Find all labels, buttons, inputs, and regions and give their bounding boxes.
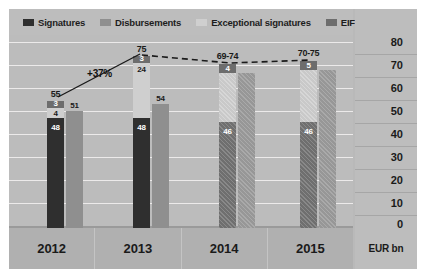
y-axis-tick-80: 80 [391,36,403,48]
bar-group-2012: 48 4 3 51 55 [47,35,127,228]
legend-item-signatures: Signatures [23,17,85,28]
y-axis-rule-10 [355,215,417,216]
x-axis-label-2012: 2012 [9,228,95,269]
value-label-exceptional-2012: 4 [47,109,64,118]
y-axis-rule-50 [355,123,417,124]
y-axis-tick-40: 40 [391,128,403,140]
value-label-eif-2015: 5 [300,61,317,70]
legend-swatch-exceptional-signatures [196,19,207,26]
segment-exceptional-2015 [300,70,317,122]
y-axis-tick-10: 10 [391,197,403,209]
stacked-bar-2013[interactable] [133,56,150,228]
bar-group-2014: 46 4 69-74 [219,35,299,228]
legend-label-eif: EIF [341,17,355,28]
legend-swatch-disbursements [100,19,111,26]
legend-label-disbursements: Disbursements [115,17,181,28]
segment-signatures-2012 [47,118,64,228]
y-axis-rule-40 [355,146,417,147]
segment-signatures-2013 [133,118,150,228]
total-label-2013: 75 [131,44,152,54]
growth-annotation: +37% [87,68,112,79]
value-label-eif-2012: 3 [47,99,64,108]
y-axis-tick-50: 50 [391,105,403,117]
x-axis-label-2015: 2015 [268,228,353,269]
disbursements-bar-2014[interactable] [238,73,255,228]
y-axis-rule-20 [355,192,417,193]
stacked-bar-2012[interactable] [47,101,64,228]
y-axis-rule-80 [355,54,417,55]
legend-swatch-signatures [23,19,34,26]
y-axis-rule-30 [355,169,417,170]
plot-area: 48 4 3 51 55 48 24 3 54 75 [9,35,353,228]
legend-swatch-eif [326,19,337,26]
legend-label-exceptional-signatures: Exceptional signatures [211,17,311,28]
value-label-disbursements-2012: 51 [66,101,83,110]
segment-exceptional-2014 [219,73,236,122]
value-label-signatures-2013: 48 [133,123,150,132]
y-axis: 80 70 60 50 40 30 20 10 0 [355,9,417,228]
y-axis-tick-60: 60 [391,82,403,94]
value-label-eif-2013: 3 [133,54,150,63]
disbursements-bar-2015[interactable] [319,70,336,228]
value-label-signatures-2012: 48 [47,123,64,132]
legend-label-signatures: Signatures [38,17,85,28]
unit-label: EUR bn [355,228,417,269]
legend-item-exceptional-signatures: Exceptional signatures [196,17,311,28]
disbursements-bar-2013[interactable] [152,104,169,228]
legend-item-disbursements: Disbursements [100,17,181,28]
disbursements-bar-2012[interactable] [66,111,83,228]
x-axis-label-2014: 2014 [182,228,268,269]
total-label-2015: 70-75 [289,48,328,58]
value-label-signatures-2015: 46 [300,127,317,136]
y-axis-rule-70 [355,77,417,78]
y-axis-tick-30: 30 [391,151,403,163]
bar-group-2013: 48 24 3 54 75 [133,35,213,228]
chart-legend: Signatures Disbursements Exceptional sig… [9,9,353,35]
y-axis-rule-60 [355,100,417,101]
x-axis: 2012 2013 2014 2015 [9,228,353,269]
segment-signatures-2014 [219,122,236,228]
y-axis-tick-70: 70 [391,59,403,71]
stacked-bar-2015[interactable] [300,61,317,228]
x-axis-label-2013: 2013 [95,228,181,269]
segment-signatures-2015 [300,122,317,228]
chart-container: Signatures Disbursements Exceptional sig… [0,0,426,278]
total-label-2012: 55 [45,89,66,99]
value-label-eif-2014: 4 [219,64,236,73]
total-label-2014: 69-74 [208,51,247,61]
y-axis-tick-20: 20 [391,174,403,186]
value-label-disbursements-2013: 54 [152,94,169,103]
bar-group-2015: 46 5 70-75 [300,35,353,228]
legend-item-eif: EIF [326,17,355,28]
value-label-signatures-2014: 46 [219,127,236,136]
stacked-bar-2014[interactable] [219,64,236,228]
value-label-exceptional-2013: 24 [133,65,150,74]
